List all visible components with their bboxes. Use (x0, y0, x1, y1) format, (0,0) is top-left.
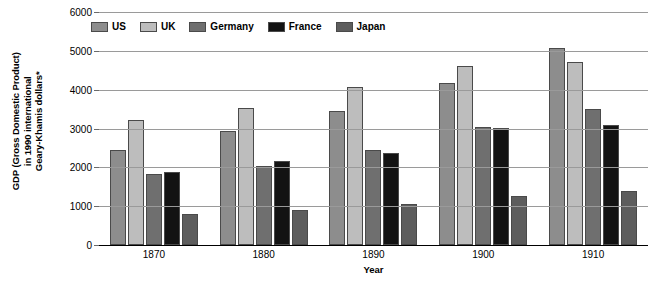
bar-germany-1900 (475, 127, 491, 245)
y-axis-tick-label: 2000 (46, 162, 99, 173)
x-axis-tick-label-1880: 1880 (209, 249, 319, 260)
bar-us-1900 (439, 83, 455, 245)
bar-us-1880 (220, 131, 236, 245)
gridline (99, 206, 648, 207)
bar-germany-1870 (146, 174, 162, 245)
legend-swatch-us (91, 22, 108, 32)
y-axis-tick-label: 5000 (46, 45, 99, 56)
gridline (99, 129, 648, 130)
x-axis-tick-label-1870: 1870 (99, 249, 209, 260)
gdp-bar-chart: GDP (Gross Domestic Product) in 1990 int… (0, 0, 666, 287)
legend-item-us: US (91, 21, 126, 32)
bar-france-1900 (493, 128, 509, 245)
x-axis-tick-label-1900: 1900 (428, 249, 538, 260)
gridline (99, 12, 648, 13)
bar-us-1910 (549, 48, 565, 245)
gridline (99, 167, 648, 168)
x-axis-tick-label-1890: 1890 (319, 249, 429, 260)
x-axis-tick-label-1910: 1910 (538, 249, 648, 260)
y-axis-tick-label: 6000 (46, 7, 99, 18)
legend-swatch-france (268, 22, 285, 32)
y-axis-tick-label: 1000 (46, 201, 99, 212)
legend-label-us: US (112, 21, 126, 32)
bar-france-1880 (274, 161, 290, 245)
gridline (99, 51, 648, 52)
bar-japan-1880 (292, 210, 308, 245)
bar-japan-1890 (401, 204, 417, 245)
legend-swatch-uk (140, 22, 157, 32)
bar-japan-1900 (511, 196, 527, 245)
bar-uk-1890 (347, 87, 363, 245)
y-axis-tick-label: 3000 (46, 123, 99, 134)
x-axis-title: Year (99, 264, 648, 275)
legend-item-france: France (268, 21, 322, 32)
legend-label-germany: Germany (210, 21, 253, 32)
legend-swatch-germany (189, 22, 206, 32)
bar-us-1870 (110, 150, 126, 245)
bar-uk-1870 (128, 120, 144, 245)
y-axis-title-container: GDP (Gross Domestic Product) in 1990 int… (0, 0, 48, 260)
y-axis-tick-label: 0 (46, 240, 99, 251)
bar-us-1890 (329, 111, 345, 245)
bar-japan-1870 (182, 214, 198, 245)
bar-uk-1900 (457, 66, 473, 245)
bar-japan-1910 (621, 191, 637, 245)
legend-label-uk: UK (161, 21, 175, 32)
y-axis-tick-label: 4000 (46, 84, 99, 95)
x-axis-tick-labels: 18701880189019001910 (99, 249, 648, 260)
gridline (99, 90, 648, 91)
legend-item-uk: UK (140, 21, 175, 32)
legend-label-france: France (289, 21, 322, 32)
plot-area: 0100020003000400050006000 (99, 12, 648, 245)
bar-germany-1890 (365, 150, 381, 245)
bar-france-1870 (164, 172, 180, 245)
chart-legend: USUKGermanyFranceJapan (88, 20, 388, 33)
legend-label-japan: Japan (357, 21, 386, 32)
y-axis-title: GDP (Gross Domestic Product) in 1990 int… (10, 26, 45, 216)
bar-france-1910 (603, 125, 619, 245)
legend-swatch-japan (336, 22, 353, 32)
legend-item-germany: Germany (189, 21, 253, 32)
legend-item-japan: Japan (336, 21, 386, 32)
